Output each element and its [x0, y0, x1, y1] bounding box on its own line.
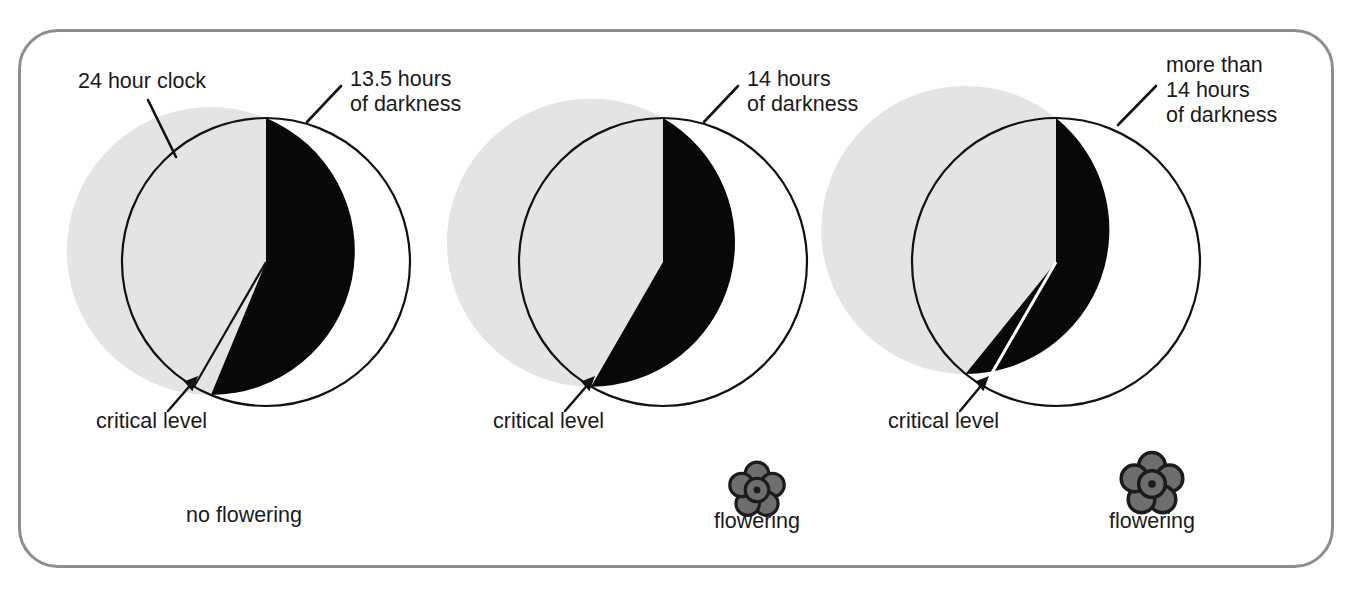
- panel-3-critical-arrow-icon: [960, 378, 987, 411]
- panel-1-outcome-label: no flowering: [186, 503, 302, 527]
- panel-2-critical-label: critical level: [493, 409, 604, 433]
- panel-3-flower-icon: [1121, 453, 1183, 513]
- panel-1-critical-label: critical level: [96, 409, 207, 433]
- panel-3-darkness-label-line2: of darkness: [1166, 103, 1277, 127]
- panel-3-darkness-label-line0: more than: [1166, 53, 1263, 77]
- panel-1-darkness-label-line2: of darkness: [350, 92, 461, 116]
- pie-diagram-svg: 24 hour clock 13.5 hours of darkness cri…: [0, 0, 1354, 593]
- panel-2-darkness-leader-line: [704, 86, 738, 122]
- panel-3-outcome-label: flowering: [1109, 509, 1195, 533]
- panel-3-darkness-label-line1: 14 hours: [1166, 78, 1250, 102]
- panel-3: more than 14 hours of darkness critical …: [821, 53, 1277, 533]
- panel-1-darkness-leader-line: [307, 86, 341, 122]
- panel-3-critical-label: critical level: [888, 409, 999, 433]
- panel-3-darkness-leader-line: [1118, 86, 1156, 125]
- panel-2-darkness-label-line2: of darkness: [747, 92, 858, 116]
- panel-1-darkness-label-line1: 13.5 hours: [350, 67, 452, 91]
- panel-1: 24 hour clock 13.5 hours of darkness cri…: [67, 67, 461, 527]
- panel-2: 14 hours of darkness critical level flow…: [447, 67, 858, 533]
- panel-2-darkness-label-line1: 14 hours: [747, 67, 831, 91]
- diagram-stage: 24 hour clock 13.5 hours of darkness cri…: [0, 0, 1354, 593]
- panel-2-flower-icon: [730, 462, 785, 515]
- panel-1-clock-label: 24 hour clock: [78, 69, 206, 93]
- panel-2-outcome-label: flowering: [714, 509, 800, 533]
